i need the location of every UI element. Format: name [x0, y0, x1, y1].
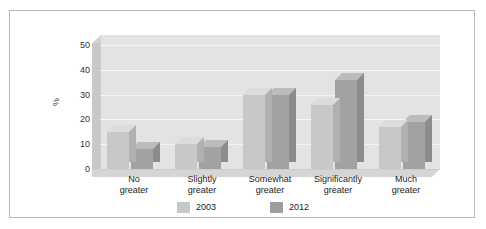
legend-swatch-icon: [270, 202, 283, 213]
x-category-line: No: [100, 174, 168, 185]
bar-2003-slightly-greater[interactable]: [175, 144, 197, 169]
legend-item-2012[interactable]: 2012: [270, 202, 309, 213]
bar-front-face: [311, 105, 333, 169]
x-category-line: greater: [372, 185, 440, 196]
x-category-significantly-greater: Significantlygreater: [304, 174, 372, 196]
x-category-line: greater: [236, 185, 304, 196]
bar-2003-significantly-greater[interactable]: [311, 105, 333, 169]
legend-swatch-icon: [177, 202, 190, 213]
chart-legend: 20032012: [10, 199, 476, 215]
x-category-line: Slightly: [168, 174, 236, 185]
bar-front-face: [243, 95, 265, 169]
bar-side-face: [333, 98, 340, 162]
bar-side-face: [401, 120, 408, 162]
legend-label: 2012: [289, 203, 309, 212]
x-category-somewhat-greater: Somewhatgreater: [236, 174, 304, 196]
bar-side-face: [265, 88, 272, 162]
x-category-line: greater: [168, 185, 236, 196]
plot-area: 01020304050 % NogreaterSlightlygreaterSo…: [10, 11, 476, 219]
x-category-line: greater: [100, 185, 168, 196]
x-category-much-greater: Muchgreater: [372, 174, 440, 196]
bar-front-face: [107, 132, 129, 169]
x-category-line: greater: [304, 185, 372, 196]
x-category-slightly-greater: Slightlygreater: [168, 174, 236, 196]
bar-2003-somewhat-greater[interactable]: [243, 95, 265, 169]
x-category-line: Much: [372, 174, 440, 185]
bar-side-face: [289, 88, 296, 162]
legend-label: 2003: [196, 203, 216, 212]
bar-side-face: [425, 115, 432, 162]
x-category-line: Somewhat: [236, 174, 304, 185]
bar-2003-no-greater[interactable]: [107, 132, 129, 169]
legend-item-2003[interactable]: 2003: [177, 202, 216, 213]
cut-off-caption-strip: · · ·: [0, 0, 486, 9]
bar-side-face: [357, 73, 364, 162]
bar-front-face: [175, 144, 197, 169]
x-category-no-greater: Nogreater: [100, 174, 168, 196]
bar-2003-much-greater[interactable]: [379, 127, 401, 169]
bar-front-face: [379, 127, 401, 169]
chart-figure-frame: 01020304050 % NogreaterSlightlygreaterSo…: [9, 10, 475, 218]
x-category-line: Significantly: [304, 174, 372, 185]
